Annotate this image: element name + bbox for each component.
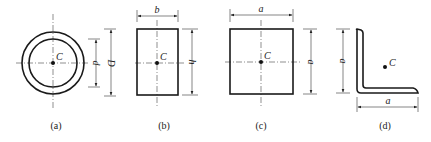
dim-h: h xyxy=(187,60,198,65)
dim-a-bottom: a xyxy=(386,95,391,106)
dim-a-top: a xyxy=(259,3,264,14)
caption-c: (c) xyxy=(255,120,266,132)
centroid-dot xyxy=(51,61,55,65)
dim-a-right: a xyxy=(306,60,317,65)
caption-a: (a) xyxy=(50,120,61,132)
centroid-dot xyxy=(155,61,159,65)
centroid-dot xyxy=(383,65,387,69)
figure-d-angle: C a a (d) xyxy=(336,29,418,132)
caption-d: (d) xyxy=(379,120,391,132)
cross-sections-diagram: C d D (a) C b h (b) C a xyxy=(0,0,431,142)
dim-d: d xyxy=(91,61,102,67)
dim-a-left: a xyxy=(338,59,349,64)
dim-b: b xyxy=(155,4,160,15)
figure-b-rectangle: C b h (b) xyxy=(135,4,198,132)
centroid-dot xyxy=(259,60,263,64)
centroid-label: C xyxy=(160,51,167,62)
centroid-label: C xyxy=(56,51,63,62)
figure-a-hollow-circle: C d D (a) xyxy=(16,14,117,132)
figure-c-square: C a a (c) xyxy=(225,3,317,132)
dim-D: D xyxy=(106,58,117,67)
caption-b: (b) xyxy=(158,120,170,132)
centroid-label: C xyxy=(389,57,396,68)
centroid-label: C xyxy=(264,50,271,61)
